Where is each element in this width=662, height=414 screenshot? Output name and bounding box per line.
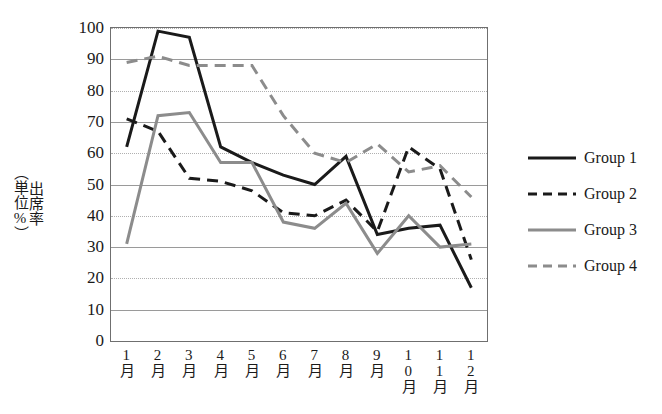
x-axis-tick: 2月 [150, 347, 165, 378]
series-line [127, 56, 472, 197]
legend-line-swatch [528, 152, 576, 164]
y-axis-tick: 30 [60, 238, 104, 255]
legend-item[interactable]: Group 3 [528, 212, 658, 248]
legend-line-swatch [528, 188, 576, 200]
legend-line-swatch [528, 260, 576, 272]
x-axis-tick-labels: 1月2月3月4月5月6月7月8月9月10月11月12月 [110, 347, 488, 407]
y-axis-tick: 60 [60, 144, 104, 161]
x-axis-tick: 11月 [432, 347, 447, 394]
series-line [127, 113, 472, 254]
y-axis-tick: 80 [60, 81, 104, 98]
y-axis-tick: 0 [60, 332, 104, 349]
y-axis-tick: 10 [60, 300, 104, 317]
y-axis-title: （単位%） 出席率 [4, 128, 50, 278]
x-axis-tick: 9月 [369, 347, 384, 378]
legend-line-swatch [528, 224, 576, 236]
x-axis-tick: 7月 [306, 347, 321, 378]
y-axis-title-line2: （単位%） [11, 165, 27, 241]
legend-label: Group 2 [584, 185, 637, 203]
x-axis-tick: 1月 [118, 347, 133, 378]
series-line [127, 31, 472, 288]
x-axis-tick: 3月 [181, 347, 196, 378]
legend-item[interactable]: Group 4 [528, 248, 658, 284]
legend: Group 1Group 2Group 3Group 4 [528, 140, 658, 284]
x-axis-tick: 5月 [244, 347, 259, 378]
legend-item[interactable]: Group 1 [528, 140, 658, 176]
y-axis-tick: 40 [60, 206, 104, 223]
y-axis-tick: 70 [60, 112, 104, 129]
y-axis-tick: 100 [60, 19, 104, 36]
series-line [127, 119, 472, 260]
line-chart: （単位%） 出席率 0102030405060708090100 1月2月3月4… [0, 0, 662, 414]
legend-label: Group 3 [584, 221, 637, 239]
x-axis-tick: 8月 [338, 347, 353, 378]
x-axis-tick: 6月 [275, 347, 290, 378]
x-axis-tick: 12月 [463, 347, 478, 394]
y-axis-tick: 20 [60, 269, 104, 286]
x-axis-tick: 4月 [212, 347, 227, 378]
y-axis-tick: 90 [60, 50, 104, 67]
legend-label: Group 1 [584, 149, 637, 167]
legend-item[interactable]: Group 2 [528, 176, 658, 212]
y-axis-tick-labels: 0102030405060708090100 [58, 0, 104, 414]
series-lines [111, 28, 487, 341]
x-axis-tick: 10月 [400, 347, 415, 394]
legend-label: Group 4 [584, 257, 637, 275]
y-axis-title-line1: 出席率 [27, 181, 43, 226]
y-axis-tick: 50 [60, 175, 104, 192]
plot-area [110, 27, 488, 342]
